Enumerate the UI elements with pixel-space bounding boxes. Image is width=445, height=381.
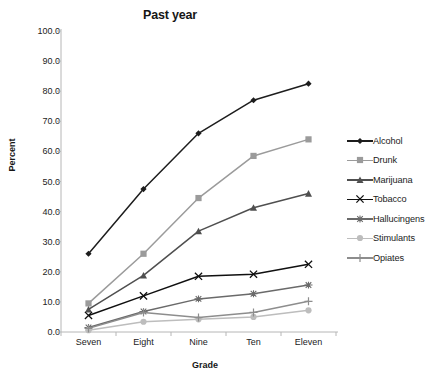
legend-item-marijuana[interactable]: Marijuana — [347, 170, 445, 190]
series-line — [89, 194, 309, 310]
legend-label: Marijuana — [373, 175, 412, 185]
data-point-marker — [250, 290, 258, 297]
data-point-marker — [305, 297, 313, 305]
legend-item-stimulants[interactable]: Stimulants — [347, 229, 445, 249]
legend-label: Opiates — [373, 253, 404, 263]
legend-swatch-square-icon — [347, 153, 373, 167]
legend-marker-icon — [353, 231, 367, 245]
series-line — [89, 139, 309, 303]
data-point-marker — [140, 251, 146, 257]
legend-label: Hallucingens — [373, 214, 424, 224]
series-marijuana — [85, 190, 312, 312]
legend-swatch-diamond-icon — [347, 134, 373, 148]
data-point-marker — [356, 215, 364, 222]
data-point-marker — [305, 136, 311, 142]
legend-marker-icon — [353, 212, 367, 226]
chart-container: Past year Percent 0.010.020.030.040.050.… — [0, 0, 445, 381]
legend-label: Alcohol — [373, 136, 402, 146]
data-point-marker — [357, 176, 364, 183]
data-point-marker — [85, 306, 92, 313]
legend-label: Tobacco — [373, 194, 407, 204]
data-point-marker — [140, 319, 146, 325]
data-point-marker — [357, 235, 363, 241]
legend-marker-icon — [353, 153, 367, 167]
series-hallucingens — [85, 282, 313, 331]
legend-item-alcohol[interactable]: Alcohol — [347, 131, 445, 151]
data-point-marker — [305, 190, 312, 197]
data-point-marker — [195, 228, 202, 235]
data-point-marker — [305, 81, 311, 87]
legend-swatch-plus-icon — [347, 251, 373, 265]
data-point-marker — [356, 196, 363, 203]
data-point-marker — [85, 312, 92, 319]
data-point-marker — [356, 254, 364, 262]
data-point-marker — [250, 153, 256, 159]
legend-item-opiates[interactable]: Opiates — [347, 248, 445, 268]
legend-item-hallucingens[interactable]: Hallucingens — [347, 209, 445, 229]
data-point-marker — [305, 307, 311, 313]
legend-marker-icon — [353, 173, 367, 187]
data-point-marker — [357, 157, 363, 163]
legend-swatch-dash-icon — [347, 212, 373, 226]
data-point-marker — [195, 195, 201, 201]
legend-swatch-triangle-icon — [347, 173, 373, 187]
legend-swatch-circle-icon — [347, 231, 373, 245]
data-point-marker — [305, 282, 313, 289]
legend-item-drunk[interactable]: Drunk — [347, 151, 445, 171]
legend-label: Drunk — [373, 155, 397, 165]
data-point-marker — [85, 300, 91, 306]
legend-marker-icon — [353, 192, 367, 206]
data-point-marker — [195, 295, 203, 302]
data-point-marker — [357, 138, 363, 144]
legend-label: Stimulants — [373, 233, 415, 243]
legend-marker-icon — [353, 251, 367, 265]
legend-swatch-cross-icon — [347, 192, 373, 206]
data-point-marker — [250, 308, 258, 316]
legend-marker-icon — [353, 134, 367, 148]
chart-legend: AlcoholDrunkMarijuanaTobaccoHallucingens… — [347, 131, 445, 268]
data-point-marker — [140, 308, 148, 316]
legend-item-tobacco[interactable]: Tobacco — [347, 190, 445, 210]
series-opiates — [85, 297, 313, 332]
data-point-marker — [140, 292, 147, 299]
series-drunk — [85, 136, 311, 306]
